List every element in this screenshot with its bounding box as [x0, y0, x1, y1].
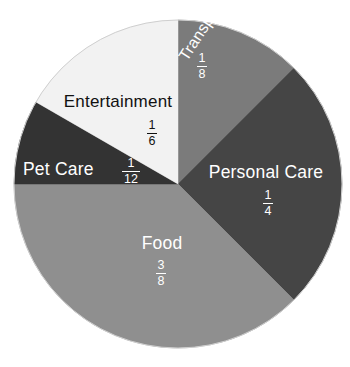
pie-slices: [14, 20, 342, 348]
pie-chart: Transportation 1 8 Personal Care 1 4 Foo…: [0, 0, 350, 367]
pie-chart-canvas: [0, 0, 350, 367]
